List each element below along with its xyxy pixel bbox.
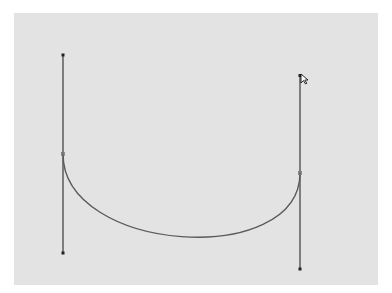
arrow-pointer-icon <box>301 74 308 84</box>
bezier-curve[interactable] <box>63 154 300 237</box>
left-handle-bottom-point[interactable] <box>62 252 65 255</box>
right-handle[interactable] <box>299 74 302 271</box>
bezier-drawing <box>0 0 392 293</box>
right-handle-bottom-point[interactable] <box>299 268 302 271</box>
left-handle-top-point[interactable] <box>62 54 65 57</box>
